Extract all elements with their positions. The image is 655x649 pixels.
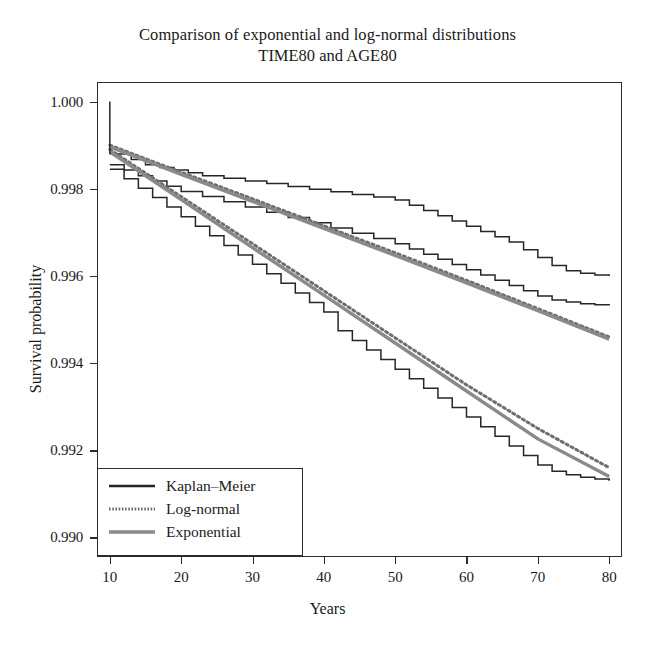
- y-tick: [90, 102, 97, 103]
- y-tick-label: 0.998: [19, 180, 83, 197]
- y-tick: [90, 189, 97, 190]
- y-tick: [90, 276, 97, 277]
- legend-item-exponential: Exponential: [108, 521, 241, 543]
- legend-label-kaplan-meier: Kaplan–Meier: [166, 478, 256, 494]
- y-tick: [90, 450, 97, 451]
- x-tick-label: 50: [375, 569, 415, 586]
- x-tick: [110, 557, 111, 564]
- curve-kaplan-meier: [110, 169, 609, 481]
- curve-exponential: [110, 147, 609, 339]
- x-tick: [466, 557, 467, 564]
- y-tick: [90, 537, 97, 538]
- legend-item-kaplan-meier: Kaplan–Meier: [108, 475, 256, 497]
- y-axis-title: Survival probability: [27, 229, 45, 429]
- legend-label-exponential: Exponential: [166, 524, 241, 540]
- legend-swatch-log-normal: [108, 504, 156, 514]
- y-tick-label: 0.990: [19, 529, 83, 546]
- y-tick-label: 0.992: [19, 442, 83, 459]
- legend-item-log-normal: Log-normal: [108, 498, 240, 520]
- x-tick: [609, 557, 610, 564]
- legend-swatch-kaplan-meier: [108, 481, 156, 491]
- x-axis-title: Years: [0, 600, 655, 618]
- x-tick-label: 30: [233, 569, 273, 586]
- x-tick: [538, 557, 539, 564]
- x-tick-label: 20: [161, 569, 201, 586]
- x-tick: [181, 557, 182, 564]
- survival-curve-figure: Comparison of exponential and log-normal…: [0, 0, 655, 649]
- chart-subtitle: TIME80 and AGE80: [0, 45, 655, 66]
- y-tick: [90, 363, 97, 364]
- x-tick-label: 40: [304, 569, 344, 586]
- x-tick: [324, 557, 325, 564]
- x-tick-label: 60: [446, 569, 486, 586]
- legend: Kaplan–Meier Log-normal Exponential: [97, 468, 303, 556]
- legend-label-log-normal: Log-normal: [166, 501, 240, 517]
- y-tick-label: 1.000: [19, 93, 83, 110]
- x-tick-label: 70: [518, 569, 558, 586]
- x-tick: [253, 557, 254, 564]
- x-tick: [395, 557, 396, 564]
- chart-title: Comparison of exponential and log-normal…: [0, 24, 655, 45]
- chart-title-block: Comparison of exponential and log-normal…: [0, 24, 655, 67]
- x-tick-label: 10: [90, 569, 130, 586]
- x-tick-label: 80: [589, 569, 629, 586]
- legend-swatch-exponential: [108, 527, 156, 537]
- curve-kaplan-meier: [110, 165, 609, 306]
